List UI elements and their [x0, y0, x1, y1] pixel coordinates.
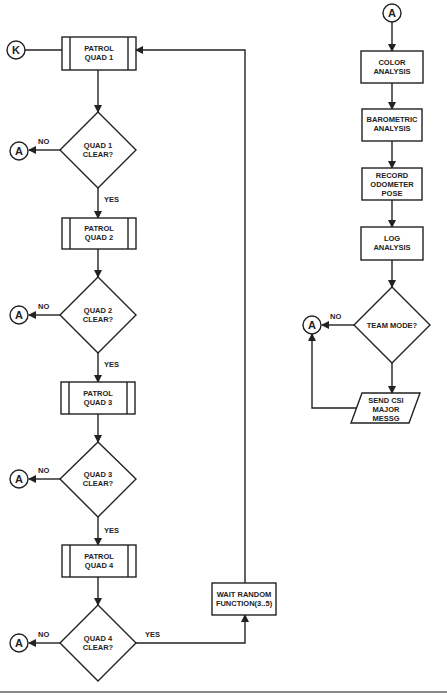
process-wait-random: WAIT RANDOM FUNCTION(3..5)	[212, 583, 276, 615]
connector-a: A	[10, 470, 28, 488]
svg-text:CLEAR?: CLEAR?	[83, 150, 114, 159]
decision-quad-2-clear: QUAD 2 CLEAR?	[60, 277, 136, 353]
connector-a-entry: A	[383, 4, 401, 22]
svg-text:LOG: LOG	[384, 234, 400, 243]
svg-text:QUAD 1: QUAD 1	[85, 53, 113, 62]
edge-label-no: NO	[330, 312, 341, 321]
decision-quad-3-clear: QUAD 3 CLEAR?	[60, 442, 136, 517]
svg-text:A: A	[388, 7, 396, 19]
svg-text:A: A	[15, 309, 23, 321]
svg-text:BAROMETRIC: BAROMETRIC	[367, 115, 418, 124]
connector-a: A	[10, 142, 28, 160]
svg-text:ODOMETER: ODOMETER	[370, 180, 414, 189]
connector-a: A	[10, 306, 28, 324]
svg-text:QUAD 3: QUAD 3	[84, 398, 112, 407]
svg-text:MESSG: MESSG	[372, 414, 399, 423]
svg-text:K: K	[12, 44, 20, 56]
svg-text:QUAD 2: QUAD 2	[84, 306, 112, 315]
process-record-odometer-pose: RECORD ODOMETER POSE	[362, 168, 422, 200]
svg-text:RECORD: RECORD	[376, 171, 409, 180]
svg-text:PATROL: PATROL	[84, 552, 114, 561]
svg-text:PATROL: PATROL	[83, 389, 113, 398]
connector-a: A	[303, 316, 321, 334]
svg-text:SEND CSI: SEND CSI	[368, 396, 403, 405]
svg-text:PATROL: PATROL	[84, 224, 114, 233]
svg-text:QUAD 2: QUAD 2	[85, 233, 113, 242]
decision-quad-1-clear: QUAD 1 CLEAR?	[60, 112, 136, 188]
edge-label-yes: YES	[104, 360, 119, 369]
svg-text:MAJOR: MAJOR	[372, 405, 400, 414]
edge-send-to-a	[312, 334, 356, 408]
decision-team-mode: TEAM MODE?	[354, 287, 430, 363]
connector-k: K	[7, 41, 25, 59]
svg-text:QUAD 1: QUAD 1	[84, 141, 112, 150]
connector-a: A	[10, 634, 28, 652]
process-patrol-quad-2: PATROL QUAD 2	[62, 218, 136, 249]
svg-text:CLEAR?: CLEAR?	[83, 315, 114, 324]
process-barometric-analysis: BAROMETRIC ANALYSIS	[362, 109, 422, 141]
svg-text:QUAD 4: QUAD 4	[84, 634, 113, 643]
svg-text:ANALYSIS: ANALYSIS	[373, 67, 410, 76]
svg-text:A: A	[308, 319, 316, 331]
process-log-analysis: LOG ANALYSIS	[361, 227, 423, 260]
svg-text:CLEAR?: CLEAR?	[83, 479, 114, 488]
svg-text:A: A	[15, 145, 23, 157]
svg-text:COLOR: COLOR	[378, 58, 406, 67]
svg-text:QUAD 4: QUAD 4	[85, 561, 114, 570]
svg-text:TEAM MODE?: TEAM MODE?	[367, 321, 418, 330]
svg-text:ANALYSIS: ANALYSIS	[373, 124, 410, 133]
flowchart: K PATROL QUAD 1 QUAD 1 CLEAR? NO A YES P…	[0, 0, 447, 696]
edge-label-yes: YES	[145, 630, 160, 639]
svg-text:FUNCTION(3..5): FUNCTION(3..5)	[216, 599, 273, 608]
process-patrol-quad-1: PATROL QUAD 1	[62, 37, 136, 70]
svg-text:PATROL: PATROL	[84, 44, 114, 53]
edge-label-no: NO	[38, 466, 49, 475]
process-color-analysis: COLOR ANALYSIS	[361, 51, 423, 83]
svg-text:A: A	[15, 473, 23, 485]
edge-wait-to-patrol1	[136, 50, 245, 583]
svg-text:POSE: POSE	[382, 189, 403, 198]
svg-text:ANALYSIS: ANALYSIS	[373, 243, 410, 252]
svg-text:QUAD 3: QUAD 3	[84, 470, 112, 479]
edge-label-yes: YES	[104, 195, 119, 204]
edge-label-yes: YES	[104, 526, 119, 535]
edge-label-no: NO	[38, 302, 49, 311]
process-patrol-quad-3: PATROL QUAD 3	[61, 382, 135, 414]
bottom-divider	[0, 691, 447, 693]
edge-label-no: NO	[38, 630, 49, 639]
process-patrol-quad-4: PATROL QUAD 4	[62, 545, 136, 577]
svg-text:WAIT RANDOM: WAIT RANDOM	[217, 590, 272, 599]
svg-text:A: A	[15, 637, 23, 649]
svg-text:CLEAR?: CLEAR?	[83, 643, 114, 652]
edge-label-no: NO	[38, 137, 49, 146]
io-send-csi-major-messg: SEND CSI MAJOR MESSG	[351, 393, 420, 423]
decision-quad-4-clear: QUAD 4 CLEAR?	[60, 605, 136, 681]
